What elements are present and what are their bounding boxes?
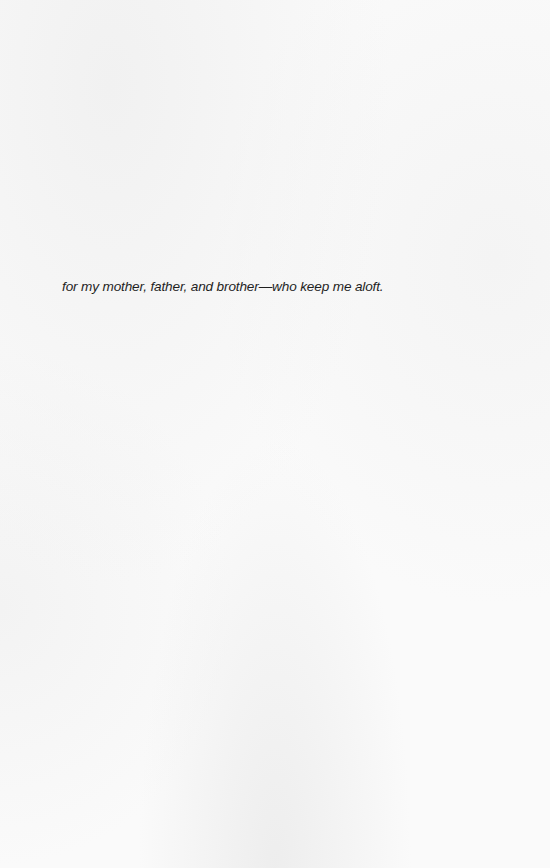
book-page: for my mother, father, and brother—who k… xyxy=(0,0,550,868)
dedication-text: for my mother, father, and brother—who k… xyxy=(62,278,384,296)
